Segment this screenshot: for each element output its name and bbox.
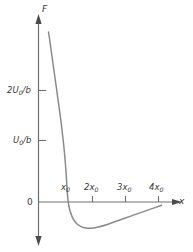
y-tick-2U0b-pre: 2U [7,85,19,95]
y-tick-label-2U0-over-b: 2U0/b [7,86,31,95]
y-axis-arrow-down [35,236,41,246]
x-tick-4x0-main: 4x [149,182,159,192]
y-tick-U0b-sub: 0 [19,139,23,146]
plot-canvas [0,0,193,252]
x-tick-4x0-sub: 0 [159,186,163,193]
x-tick-3x0-main: 3x [117,182,127,192]
y-axis-label: F [42,5,47,14]
x-tick-x0-sub: 0 [66,186,70,193]
x-tick-3x0-sub: 0 [127,186,131,193]
x-tick-2x0-main: 2x [84,182,94,192]
force-vs-distance-figure: F x 0 2U0/b U0/b x0 2x0 3x0 4x0 [0,0,193,252]
y-tick-2U0b-post: /b [23,85,31,95]
x-tick-label-x0: x0 [61,183,70,192]
x-tick-label-2x0: 2x0 [84,183,98,192]
origin-tick-label: 0 [27,198,33,207]
force-curve [49,32,162,228]
y-tick-label-U0-over-b: U0/b [13,136,31,145]
x-tick-label-3x0: 3x0 [117,183,131,192]
x-axis-label: x [179,197,184,206]
y-tick-2U0b-sub: 0 [19,89,23,96]
y-axis-arrow-up [35,14,41,24]
x-tick-label-4x0: 4x0 [149,183,163,192]
x-tick-2x0-sub: 0 [94,186,98,193]
y-tick-U0b-post: /b [23,135,31,145]
